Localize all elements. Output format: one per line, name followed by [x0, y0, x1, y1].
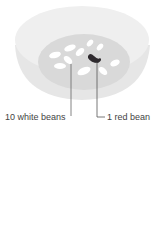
label-white-beans: 10 white beans	[5, 113, 66, 122]
label-red-bean: 1 red bean	[107, 113, 150, 122]
